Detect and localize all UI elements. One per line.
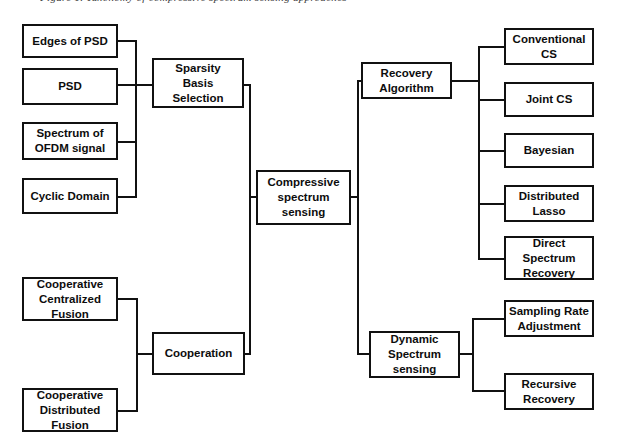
node-recovery-algorithm-label-line2: Algorithm <box>366 81 447 96</box>
node-cooperation[interactable]: Cooperation <box>152 332 245 375</box>
node-dynamic-spectrum-sensing[interactable]: Dynamic Spectrum sensing <box>369 331 460 378</box>
node-compressive-spectrum-sensing-label-line2: spectrum <box>261 190 346 205</box>
node-conventional-cs-label-line1: Conventional <box>509 32 589 47</box>
node-cooperative-centralized-fusion-label-line2: Centralized <box>27 292 113 307</box>
node-compressive-spectrum-sensing-label-line3: sensing <box>261 205 346 220</box>
node-cooperative-distributed-fusion-label-line1: Cooperative <box>27 388 113 403</box>
node-distributed-lasso-label-line1: Distributed <box>509 189 589 204</box>
node-distributed-lasso[interactable]: Distributed Lasso <box>504 185 594 222</box>
node-sparsity-basis-selection-label-line1: Sparsity <box>157 61 239 76</box>
node-recursive-recovery-label-line1: Recursive <box>509 377 589 392</box>
node-sampling-rate-adjustment[interactable]: Sampling Rate Adjustment <box>504 300 594 337</box>
edge-dynamic-bus <box>472 318 474 392</box>
node-sparsity-basis-selection[interactable]: Sparsity Basis Selection <box>152 58 244 108</box>
edge-sampling-rate-in <box>472 318 505 320</box>
node-sparsity-basis-selection-label-line3: Selection <box>157 91 239 106</box>
node-compressive-spectrum-sensing-label-line1: Compressive <box>261 175 346 190</box>
node-cooperative-distributed-fusion-label-line3: Fusion <box>27 418 113 433</box>
node-compressive-spectrum-sensing[interactable]: Compressive spectrum sensing <box>256 170 351 225</box>
edge-root-right-bus <box>357 80 359 355</box>
edge-cooperation-rise <box>249 196 251 355</box>
node-cooperation-label: Cooperation <box>157 346 240 361</box>
node-cooperative-distributed-fusion-label-line2: Distributed <box>27 403 113 418</box>
node-direct-spectrum-recovery-label-line1: Direct <box>509 236 589 251</box>
node-recursive-recovery[interactable]: Recursive Recovery <box>504 373 594 410</box>
edge-recovery-bus <box>478 46 480 260</box>
edge-coop-distributed-stub <box>118 410 138 412</box>
node-sampling-rate-adjustment-label-line2: Adjustment <box>509 319 589 334</box>
diagram-canvas: Figure 1. Taxonomy of compressive spectr… <box>0 0 617 448</box>
node-spectrum-of-ofdm-signal[interactable]: Spectrum of OFDM signal <box>22 122 118 160</box>
node-psd[interactable]: PSD <box>22 68 118 105</box>
node-direct-spectrum-recovery[interactable]: Direct Spectrum Recovery <box>504 236 594 280</box>
node-edges-of-psd-label: Edges of PSD <box>27 34 113 49</box>
node-bayesian[interactable]: Bayesian <box>504 133 594 168</box>
edge-coop-centralized-drop <box>136 298 138 355</box>
node-recursive-recovery-label-line2: Recovery <box>509 392 589 407</box>
edge-sparsity-drop <box>249 84 251 198</box>
node-spectrum-of-ofdm-signal-label-line2: OFDM signal <box>27 141 113 156</box>
edge-bayesian-in <box>478 150 505 152</box>
edge-direct-spectrum-recovery-in <box>478 258 505 260</box>
edge-ofdm-rise <box>135 84 137 143</box>
node-direct-spectrum-recovery-label-line2: Spectrum <box>509 251 589 266</box>
node-direct-spectrum-recovery-label-line3: Recovery <box>509 266 589 281</box>
edge-conventional-cs-in <box>478 46 505 48</box>
node-edges-of-psd[interactable]: Edges of PSD <box>22 24 118 58</box>
node-dynamic-spectrum-sensing-label-line2: Spectrum <box>374 347 455 362</box>
node-spectrum-of-ofdm-signal-label-line1: Spectrum of <box>27 126 113 141</box>
edge-distributed-lasso-in <box>478 203 505 205</box>
node-cooperative-distributed-fusion[interactable]: Cooperative Distributed Fusion <box>22 388 118 432</box>
node-recovery-algorithm[interactable]: Recovery Algorithm <box>361 62 452 99</box>
node-dynamic-spectrum-sensing-label-line3: sensing <box>374 362 455 377</box>
node-cyclic-domain[interactable]: Cyclic Domain <box>22 178 118 214</box>
edge-coop-distributed-rise <box>136 353 138 412</box>
node-cooperative-centralized-fusion-label-line3: Fusion <box>27 307 113 322</box>
node-recovery-algorithm-label-line1: Recovery <box>366 66 447 81</box>
edge-cyclic-rise <box>135 141 137 198</box>
edge-edges-of-psd-drop <box>135 40 137 85</box>
node-bayesian-label: Bayesian <box>509 143 589 158</box>
node-dynamic-spectrum-sensing-label-line1: Dynamic <box>374 332 455 347</box>
node-cyclic-domain-label: Cyclic Domain <box>27 189 113 204</box>
node-cooperative-centralized-fusion[interactable]: Cooperative Centralized Fusion <box>22 277 118 321</box>
edge-coop-centralized-stub <box>118 298 138 300</box>
node-joint-cs[interactable]: Joint CS <box>504 82 594 117</box>
figure-caption-partial: Figure 1. Taxonomy of compressive spectr… <box>40 0 560 3</box>
node-conventional-cs[interactable]: Conventional CS <box>504 28 594 65</box>
edge-recovery-algorithm-out <box>452 80 480 82</box>
edge-recursive-recovery-in <box>472 390 505 392</box>
node-sampling-rate-adjustment-label-line1: Sampling Rate <box>509 304 589 319</box>
node-sparsity-basis-selection-label-line2: Basis <box>157 76 239 91</box>
node-conventional-cs-label-line2: CS <box>509 47 589 62</box>
node-cooperative-centralized-fusion-label-line1: Cooperative <box>27 277 113 292</box>
node-joint-cs-label: Joint CS <box>509 92 589 107</box>
edge-joint-cs-in <box>478 99 505 101</box>
node-distributed-lasso-label-line2: Lasso <box>509 204 589 219</box>
node-psd-label: PSD <box>27 79 113 94</box>
